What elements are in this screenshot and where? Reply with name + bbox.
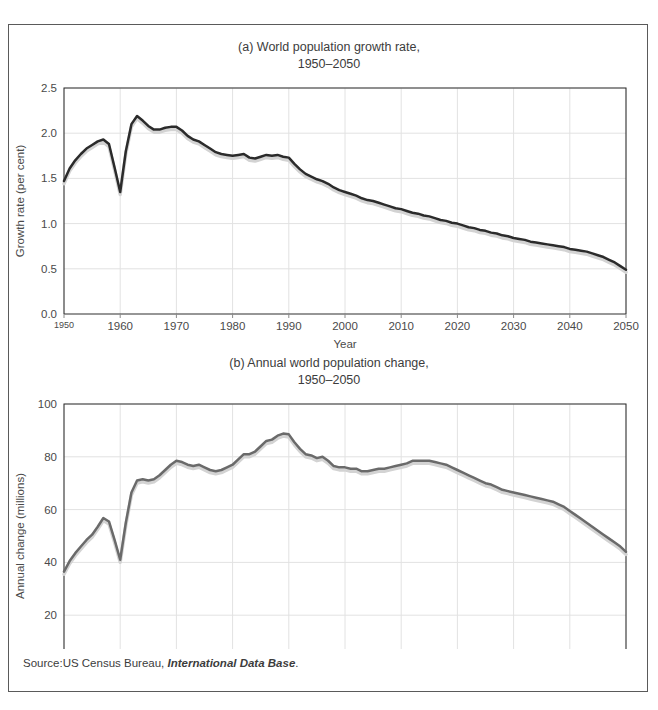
chart-b-plot: 1950196019701980199020002010202020302040… <box>9 349 649 649</box>
y-tick-label: 2.0 <box>41 127 57 139</box>
x-tick-label: 1990 <box>276 320 302 332</box>
y-tick-label: 80 <box>44 451 57 463</box>
x-tick-label: 2000 <box>332 320 358 332</box>
chart-a-plot: 1950196019701980199020002010202020302040… <box>9 25 649 355</box>
x-tick-label: 1970 <box>164 320 190 332</box>
x-tick-label: 1980 <box>220 320 246 332</box>
x-tick-label: 1950 <box>54 320 74 330</box>
y-tick-label: 40 <box>44 556 57 568</box>
chart-a-svg: 1950196019701980199020002010202020302040… <box>9 25 649 355</box>
chart-panel-a: (a) World population growth rate, 1950–2… <box>9 25 649 355</box>
y-axis-title: Annual change (millions) <box>14 473 26 599</box>
y-tick-label: 0.0 <box>41 308 57 320</box>
source-suffix: . <box>295 657 298 669</box>
y-tick-label: 0.5 <box>41 263 57 275</box>
source-publication-title: International Data Base <box>167 657 295 669</box>
figure-frame: (a) World population growth rate, 1950–2… <box>8 24 648 692</box>
x-tick-label: 2010 <box>388 320 414 332</box>
chart-b-svg: 1950196019701980199020002010202020302040… <box>9 349 649 649</box>
y-tick-label: 20 <box>44 609 57 621</box>
x-tick-label: 2050 <box>613 320 639 332</box>
y-tick-label: 1.0 <box>41 218 57 230</box>
y-tick-label: 100 <box>38 398 57 410</box>
x-tick-label: 2030 <box>501 320 527 332</box>
x-tick-label: 2040 <box>557 320 583 332</box>
x-tick-label: 1960 <box>107 320 133 332</box>
x-tick-label: 2020 <box>445 320 471 332</box>
y-tick-label: 1.5 <box>41 172 57 184</box>
y-tick-label: 2.5 <box>41 82 57 94</box>
source-note: Source:US Census Bureau, International D… <box>23 657 299 669</box>
chart-panel-b: (b) Annual world population change, 1950… <box>9 349 649 649</box>
y-axis-title: Growth rate (per cent) <box>14 145 26 258</box>
source-prefix: Source:US Census Bureau, <box>23 657 167 669</box>
y-tick-label: 60 <box>44 504 57 516</box>
